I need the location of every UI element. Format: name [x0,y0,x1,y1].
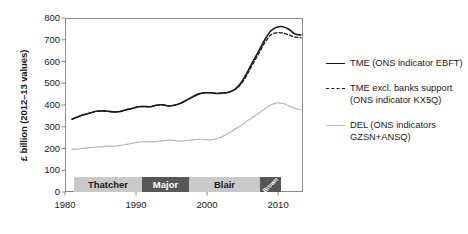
legend-item: TME (ONS indicator EBFT) [326,58,466,69]
x-tick-label: 2010 [256,200,300,210]
pm-band-blair: Blair [189,177,261,192]
y-tick-label: 500 [26,78,60,88]
pm-band-label: Brown [262,177,279,192]
pm-band-label: Major [153,179,178,190]
legend-label: TME (ONS indicator EBFT) [350,58,466,69]
series-line [72,33,301,120]
pm-band-label: Thatcher [88,179,128,190]
x-tick-label: 1990 [114,200,158,210]
legend-item: DEL (ONS indicatorsGZSN+ANSQ) [326,120,466,143]
chart-figure: £ billion (2012–13 values) 8007006005004… [0,0,468,234]
pm-band-label: Blair [214,179,235,190]
y-tick-label: 400 [26,100,60,110]
y-tick-label: 0 [26,187,60,197]
y-tick-label: 700 [26,35,60,45]
legend-label: DEL (ONS indicators [350,120,466,131]
legend-label: (ONS indicator KX5Q) [350,95,466,106]
y-tick-label: 300 [26,122,60,132]
legend-label: TME excl. banks support [350,83,466,94]
y-tick-label: 200 [26,144,60,154]
series-line [72,103,301,150]
x-tick-label: 2000 [185,200,229,210]
legend-key-dash [326,88,345,89]
pm-band-major: Major [142,177,188,192]
legend-item: TME excl. banks support(ONS indicator KX… [326,83,466,106]
legend-key-solid [326,63,345,64]
pm-band-thatcher: Thatcher [74,177,143,192]
y-tick-label: 100 [26,165,60,175]
y-tick-label: 600 [26,57,60,67]
chart-legend: TME (ONS indicator EBFT)TME excl. banks … [326,58,466,143]
y-tick-label: 800 [26,13,60,23]
x-tick-label: 1980 [43,200,87,210]
legend-label: GZSN+ANSQ) [350,132,466,143]
pm-band-brown: Brown [260,177,281,192]
legend-key-gray [326,125,345,126]
